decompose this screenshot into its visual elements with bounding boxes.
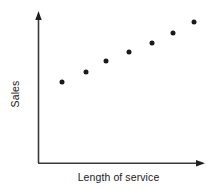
data-point	[192, 20, 197, 25]
data-point	[171, 31, 176, 36]
data-point	[84, 70, 89, 75]
x-axis-line	[38, 160, 205, 166]
scatter-points	[60, 20, 197, 85]
plot-area	[0, 0, 221, 189]
y-axis-label: Sales	[9, 64, 21, 124]
data-point	[127, 50, 132, 55]
data-point	[104, 59, 109, 64]
y-axis-line	[35, 11, 41, 163]
data-point	[60, 80, 65, 85]
data-point	[150, 41, 155, 46]
scatter-chart-figure: Sales Length of service	[0, 0, 221, 189]
x-axis-label: Length of service	[0, 171, 221, 183]
